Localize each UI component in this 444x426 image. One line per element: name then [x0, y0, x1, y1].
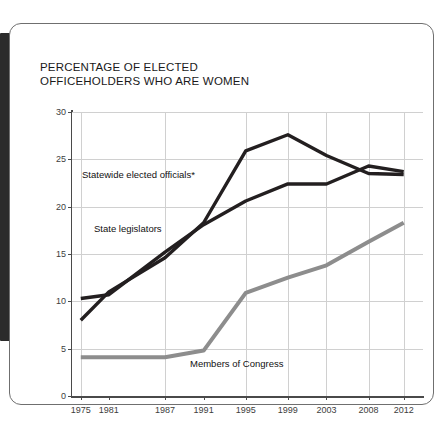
- x-tick-label: 1987: [155, 405, 175, 415]
- plot-area: 051015202530 197519811987199119951999200…: [72, 112, 423, 396]
- x-tick-label: 2003: [316, 405, 336, 415]
- series-line: [81, 223, 404, 357]
- y-tick-label: 10: [56, 296, 66, 306]
- x-tick-mark: [404, 396, 405, 400]
- x-tick-mark: [369, 396, 370, 400]
- chart-title: PERCENTAGE OF ELECTED OFFICEHOLDERS WHO …: [40, 60, 249, 88]
- x-tick-mark: [165, 396, 166, 400]
- x-tick-label: 2012: [394, 405, 414, 415]
- chart-card-root: PERCENTAGE OF ELECTED OFFICEHOLDERS WHO …: [0, 0, 444, 426]
- y-tick-mark: [68, 396, 72, 397]
- x-tick-label: 1991: [194, 405, 214, 415]
- series-label-statewide: Statewide elected officials*: [82, 169, 195, 180]
- series-lines: [72, 112, 423, 396]
- x-tick-label: 1999: [278, 405, 298, 415]
- x-axis-line: [71, 396, 424, 398]
- y-tick-label: 30: [56, 107, 66, 117]
- x-tick-mark: [109, 396, 110, 400]
- x-tick-mark: [81, 396, 82, 400]
- x-tick-label: 1981: [99, 405, 119, 415]
- x-tick-label: 1995: [236, 405, 256, 415]
- x-tick-mark: [204, 396, 205, 400]
- x-tick-label: 2008: [359, 405, 379, 415]
- y-tick-label: 20: [56, 202, 66, 212]
- y-tick-label: 0: [61, 391, 66, 401]
- y-tick-label: 25: [56, 154, 66, 164]
- chart-card: PERCENTAGE OF ELECTED OFFICEHOLDERS WHO …: [9, 23, 434, 405]
- y-tick-label: 5: [61, 344, 66, 354]
- series-label-members-of-congress: Members of Congress: [190, 358, 283, 369]
- x-tick-mark: [288, 396, 289, 400]
- series-label-state-legislators: State legislators: [94, 223, 162, 234]
- x-tick-mark: [246, 396, 247, 400]
- x-tick-mark: [326, 396, 327, 400]
- y-tick-label: 15: [56, 249, 66, 259]
- x-tick-label: 1975: [71, 405, 91, 415]
